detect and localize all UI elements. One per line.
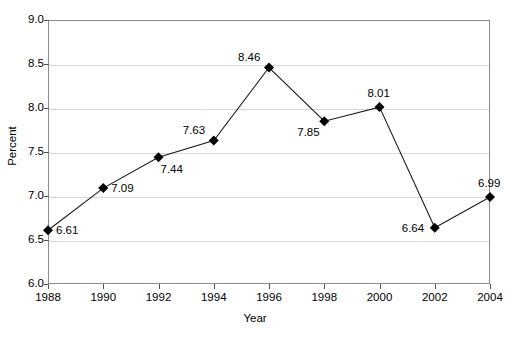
y-axis-tick-mark bbox=[44, 64, 49, 65]
x-axis-tick-mark bbox=[103, 284, 104, 289]
y-axis-tick-label: 7.0 bbox=[4, 190, 44, 202]
x-axis-tick-label: 1990 bbox=[73, 291, 133, 303]
data-point-label: 6.61 bbox=[56, 224, 78, 236]
x-axis-tick-mark bbox=[490, 284, 491, 289]
x-axis-tick-label: 1988 bbox=[18, 291, 78, 303]
gridline bbox=[49, 197, 489, 198]
data-point-label: 7.85 bbox=[297, 126, 319, 138]
data-point-label: 6.99 bbox=[478, 177, 500, 189]
x-axis-tick-mark bbox=[159, 284, 160, 289]
x-axis-tick-mark bbox=[269, 284, 270, 289]
gridline bbox=[49, 241, 489, 242]
x-axis-tick-mark bbox=[324, 284, 325, 289]
gridline bbox=[49, 65, 489, 66]
data-point-label: 7.09 bbox=[111, 182, 133, 194]
y-axis-tick-mark bbox=[44, 152, 49, 153]
line-chart: 6.06.57.07.58.08.59.0 198819901992199419… bbox=[0, 0, 510, 340]
x-axis-tick-label: 1994 bbox=[184, 291, 244, 303]
x-axis-tick-label: 1998 bbox=[294, 291, 354, 303]
data-point-label: 8.46 bbox=[238, 51, 260, 63]
x-axis-tick-label: 2004 bbox=[460, 291, 510, 303]
data-point-label: 7.44 bbox=[161, 163, 183, 175]
plot-area bbox=[48, 20, 490, 284]
x-axis-tick-label: 2000 bbox=[350, 291, 410, 303]
x-axis-tick-label: 1992 bbox=[129, 291, 189, 303]
y-axis-tick-mark bbox=[44, 240, 49, 241]
x-axis-tick-mark bbox=[214, 284, 215, 289]
y-axis-tick-mark bbox=[44, 108, 49, 109]
data-point-label: 8.01 bbox=[368, 87, 390, 99]
y-axis-tick-label: 6.5 bbox=[4, 234, 44, 246]
x-axis-tick-mark bbox=[380, 284, 381, 289]
x-axis-tick-mark bbox=[48, 284, 49, 289]
x-axis-tick-mark bbox=[435, 284, 436, 289]
y-axis-tick-label: 8.0 bbox=[4, 102, 44, 114]
x-axis-tick-label: 1996 bbox=[239, 291, 299, 303]
x-axis-tick-label: 2002 bbox=[405, 291, 465, 303]
y-axis-tick-label: 8.5 bbox=[4, 58, 44, 70]
data-point-label: 7.63 bbox=[183, 124, 205, 136]
x-axis-title: Year bbox=[0, 312, 510, 324]
data-point-label: 6.64 bbox=[402, 222, 424, 234]
gridline bbox=[49, 153, 489, 154]
y-axis-tick-mark bbox=[44, 196, 49, 197]
gridline bbox=[49, 109, 489, 110]
y-axis-title: Percent bbox=[6, 116, 18, 176]
y-axis-tick-label: 6.0 bbox=[4, 278, 44, 290]
y-axis-tick-label: 9.0 bbox=[4, 14, 44, 26]
y-axis-tick-mark bbox=[44, 20, 49, 21]
